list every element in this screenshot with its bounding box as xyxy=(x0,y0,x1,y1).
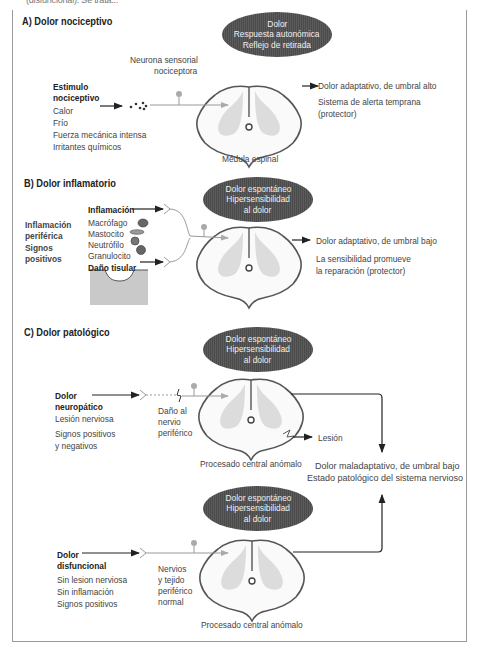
side-label-line: periférica xyxy=(25,230,63,241)
section-c-outcome-desc: Estado patológico del sistema nervioso xyxy=(307,473,463,484)
section-c-neuro-pain-ellipse: Dolor espontáneo Hipersensibilidad al do… xyxy=(203,327,313,372)
side-label-line: Inflamación xyxy=(25,219,71,230)
inflammation-label: Inflamación xyxy=(88,204,134,215)
section-b-pain-ellipse: Dolor espontáneo Hipersensibilidad al do… xyxy=(203,177,313,222)
ellipse-line: al dolor xyxy=(244,205,271,216)
neuro-cord-label: Procesado central anómalo xyxy=(200,458,302,469)
ellipse-line: al dolor xyxy=(244,514,271,525)
section-b-outcome-desc-2: la reparación (protector) xyxy=(316,265,405,276)
cell-label-neutrophil: Neutrófilo xyxy=(88,239,124,250)
section-b-title: B) Dolor inflamatorio xyxy=(24,178,116,189)
section-a-outcome-desc-1: Sistema de alerta temprana xyxy=(318,96,421,107)
normal-nerve-label: normal xyxy=(158,596,184,607)
dysfunctional-item: Sin lesion nerviosa xyxy=(57,574,127,585)
macrophage-icon xyxy=(138,219,148,227)
section-c-title: C) Dolor patológico xyxy=(24,327,110,338)
section-a-title: A) Dolor nociceptivo xyxy=(22,16,112,27)
neuropathic-item: Lesión nerviosa xyxy=(55,413,114,424)
nerve-damage-label: periférico xyxy=(158,427,192,438)
stimulus-dots-icon xyxy=(130,102,148,111)
stimulus-item: Calor xyxy=(53,105,73,116)
neuron-label-line-1: Neurona sensorial xyxy=(130,54,198,65)
stimulus-item: Frío xyxy=(53,117,68,128)
cell-label-granulocyte: Granulocito xyxy=(88,250,131,261)
nerve-damage-icon xyxy=(177,389,181,402)
section-b-outcome-title: Dolor adaptativo, de umbral bajo xyxy=(316,235,437,246)
stimulus-item: Irritantes químicos xyxy=(53,141,121,152)
normal-nerve-label: Nervios xyxy=(158,563,186,574)
side-label-line: positivos xyxy=(25,253,62,264)
section-c-dys-pain-ellipse: Dolor espontáneo Hipersensibilidad al do… xyxy=(203,486,313,531)
spinal-cord-c-neuro xyxy=(199,379,303,460)
section-a-pain-response-ellipse: Dolor Respuesta autonómica Reflejo de re… xyxy=(222,12,332,57)
neuropathic-item: Signos positivos xyxy=(55,428,115,439)
ellipse-line: al dolor xyxy=(244,355,271,366)
spinal-cord-label: Médula espinal xyxy=(222,153,278,164)
ellipse-line: Reflejo de retirada xyxy=(243,40,311,51)
dysfunctional-title-line-2: disfuncional xyxy=(57,560,106,571)
stimulus-title-line-2: nociceptivo xyxy=(53,92,99,103)
neuropathic-item: y negativos xyxy=(55,440,97,451)
side-label-line: Signos xyxy=(25,242,53,253)
neuropathic-title-line-2: neuropático xyxy=(55,401,103,412)
tissue-damage-label: Daño tisular xyxy=(88,262,136,273)
neuron-label-line-2: nociceptora xyxy=(154,65,197,76)
normal-nerve-label: periférico xyxy=(158,585,192,596)
section-a-outcome-title: Dolor adaptativo, de umbral alto xyxy=(318,80,437,91)
granulocyte-icon xyxy=(137,246,146,255)
dysfunctional-item: Signos positivos xyxy=(57,598,117,609)
stimulus-item: Fuerza mecánica intensa xyxy=(53,129,146,140)
dysfunctional-item: Sin inflamación xyxy=(57,586,114,597)
damaged-tissue-icon xyxy=(90,270,148,305)
mast-cell-icon xyxy=(130,230,144,235)
neutrophil-icon xyxy=(131,237,139,245)
dysfunctional-title-line-1: Dolor xyxy=(57,549,79,560)
normal-nerve-label: y tejido xyxy=(158,574,184,585)
cell-label-macrophage: Macrófago xyxy=(88,217,128,228)
dys-cord-label: Procesado central anómalo xyxy=(201,619,303,630)
section-b-outcome-desc-1: La sensibilidad promueve xyxy=(316,253,411,264)
cell-label-mast-cell: Mastocito xyxy=(88,228,124,239)
spinal-cord-b xyxy=(197,227,301,308)
neuropathic-title-line-1: Dolor xyxy=(55,390,77,401)
section-c-outcome-title: Dolor maladaptativo, de umbral bajo xyxy=(315,461,455,472)
nerve-damage-label: nervio xyxy=(158,416,181,427)
lesion-label: Lesión xyxy=(318,432,343,443)
nerve-damage-label: Daño al xyxy=(158,405,187,416)
spinal-cord-c-dys xyxy=(200,540,304,621)
section-a-outcome-desc-2: (protector) xyxy=(318,108,357,119)
stimulus-title-line-1: Estimulo xyxy=(53,81,88,92)
